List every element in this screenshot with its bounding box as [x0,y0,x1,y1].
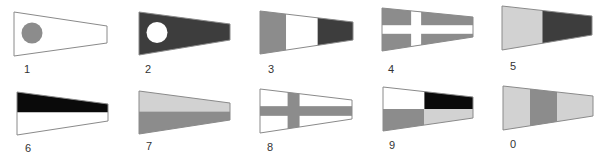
pennant-1 [14,12,107,56]
pennant-5 [502,4,593,52]
pennant-label-2: 2 [145,64,151,75]
disc-icon [147,22,168,43]
pennant-2 [139,12,230,55]
pennant-0 [503,84,594,132]
pennant-7 [139,89,230,136]
pennant-label-1: 1 [24,64,30,75]
pennant-label-4: 4 [388,64,394,75]
pennant-6 [17,90,108,137]
pennant-9 [383,85,473,133]
pennant-label-8: 8 [267,142,273,153]
pennant-label-3: 3 [268,64,274,75]
numeral-pennants-diagram: 1234567890 [0,0,610,161]
pennant-label-7: 7 [146,141,152,152]
pennant-8 [260,87,352,135]
disc-icon [22,23,43,44]
pennant-label-0: 0 [510,139,516,150]
pennant-3 [260,9,354,56]
pennant-4 [382,6,473,53]
pennant-label-9: 9 [389,140,395,151]
pennant-label-6: 6 [25,143,31,154]
flags-canvas [0,0,610,161]
pennant-label-5: 5 [510,61,516,72]
